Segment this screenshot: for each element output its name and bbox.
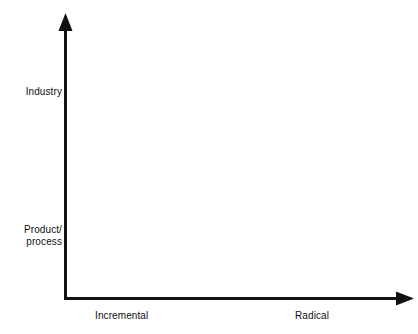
x-axis-label-radical: Radical [295, 310, 329, 322]
arrow-right-icon [396, 292, 414, 306]
diagram-canvas: Industry Product/ process Incremental Ra… [0, 0, 418, 334]
arrow-up-icon [59, 13, 73, 31]
axes-graphic [0, 0, 418, 334]
y-axis-label-product-process: Product/ process [24, 224, 62, 248]
y-axis-label-industry: Industry [26, 86, 62, 98]
x-axis-label-incremental: Incremental [95, 310, 148, 322]
